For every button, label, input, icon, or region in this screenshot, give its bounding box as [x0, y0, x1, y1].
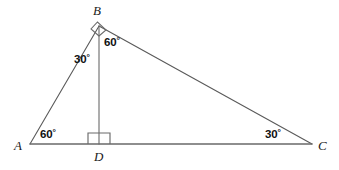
- degree-symbol-at-A: °: [52, 127, 55, 137]
- right-angle-marker-D-left: [88, 133, 99, 144]
- angle-label-DBC: 60°: [104, 36, 120, 48]
- angle-label-at-C: 30°: [265, 128, 281, 140]
- angle-value-DBC: 60: [104, 36, 116, 48]
- right-angle-marker-D-right: [99, 133, 110, 144]
- degree-symbol-DBC: °: [116, 35, 119, 45]
- degree-symbol-at-C: °: [277, 127, 280, 137]
- triangle-figure: [0, 0, 339, 170]
- vertex-label-C: C: [318, 139, 327, 152]
- degree-symbol-ABD: °: [86, 52, 89, 62]
- angle-value-at-C: 30: [265, 128, 277, 140]
- geometry-diagram-canvas: A B C D 60° 30° 60° 30°: [0, 0, 339, 170]
- vertex-label-D: D: [94, 150, 103, 163]
- angle-value-ABD: 30: [74, 53, 86, 65]
- angle-label-ABD: 30°: [74, 53, 90, 65]
- vertex-label-A: A: [14, 139, 22, 152]
- vertex-label-B: B: [93, 4, 101, 17]
- angle-label-at-A: 60°: [40, 128, 56, 140]
- angle-value-at-A: 60: [40, 128, 52, 140]
- segment-AB: [30, 26, 99, 144]
